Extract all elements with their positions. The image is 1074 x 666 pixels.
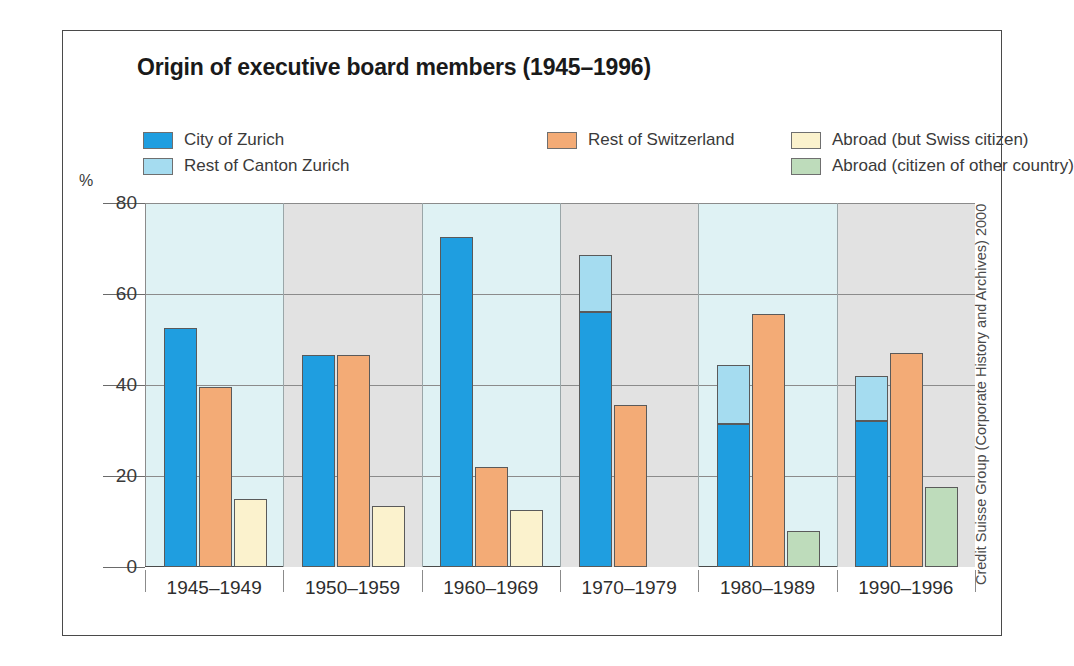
- y-axis-unit-label: %: [79, 172, 93, 190]
- legend-column-2: Rest of Switzerland: [547, 127, 734, 153]
- legend-item-city-of-zurich: City of Zurich: [143, 127, 349, 153]
- bar-group: [422, 203, 560, 567]
- x-axis-tick-mark: [698, 570, 699, 592]
- x-axis-tick-label: 1945–1949: [145, 577, 283, 599]
- legend-swatch-abroad-other-country: [791, 158, 821, 175]
- y-axis-tick-label: 20: [93, 465, 137, 487]
- legend-label-abroad-other-country: Abroad (citizen of other country): [832, 156, 1074, 176]
- x-axis-tick-label: 1970–1979: [560, 577, 698, 599]
- legend-swatch-abroad-swiss-citizen: [791, 132, 821, 149]
- bar-abroad-swiss-citizen: [234, 499, 267, 567]
- legend-label-city-of-zurich: City of Zurich: [184, 130, 284, 150]
- legend-label-abroad-swiss-citizen: Abroad (but Swiss citizen): [832, 130, 1029, 150]
- bar-rest-of-switzerland: [199, 387, 232, 567]
- x-axis-tick-mark: [837, 570, 838, 592]
- bar-rest-of-canton-zurich: [579, 255, 612, 312]
- credit-text: Credit Suisse Group (Corporate History a…: [973, 204, 989, 585]
- bar-abroad-swiss-citizen: [372, 506, 405, 567]
- legend-column-3: Abroad (but Swiss citizen) Abroad (citiz…: [791, 127, 1074, 179]
- y-axis-tick-label: 40: [93, 374, 137, 396]
- chart-legend: City of Zurich Rest of Canton Zurich Res…: [143, 127, 973, 179]
- x-axis-tick-label: 1960–1969: [422, 577, 560, 599]
- legend-column-1: City of Zurich Rest of Canton Zurich: [143, 127, 349, 179]
- bar-rest-of-canton-zurich: [855, 376, 888, 422]
- bar-city-of-zurich: [302, 355, 335, 567]
- y-axis-tick-label: 60: [93, 283, 137, 305]
- bar-group: [560, 203, 698, 567]
- bar-abroad-other-country: [925, 487, 958, 567]
- bar-rest-of-switzerland: [475, 467, 508, 567]
- bar-rest-of-switzerland: [614, 405, 647, 567]
- bar-city-of-zurich: [579, 312, 612, 567]
- legend-label-rest-of-canton-zurich: Rest of Canton Zurich: [184, 156, 349, 176]
- bar-city-of-zurich: [855, 421, 888, 567]
- x-axis-tick-label: 1950–1959: [283, 577, 421, 599]
- bar-abroad-swiss-citizen: [510, 510, 543, 567]
- bar-abroad-other-country: [787, 531, 820, 567]
- bar-rest-of-switzerland: [752, 314, 785, 567]
- chart-title: Origin of executive board members (1945–…: [137, 54, 651, 81]
- bar-city-of-zurich: [717, 424, 750, 567]
- bar-rest-of-canton-zurich: [717, 365, 750, 424]
- bar-group: [283, 203, 421, 567]
- bar-group: [698, 203, 836, 567]
- x-axis-labels: 1945–19491950–19591960–19691970–19791980…: [145, 568, 975, 608]
- y-axis-tick-label: 0: [93, 556, 137, 578]
- x-axis-tick-mark: [560, 570, 561, 592]
- legend-item-rest-of-switzerland: Rest of Switzerland: [547, 127, 734, 153]
- bar-group: [837, 203, 975, 567]
- legend-item-rest-of-canton-zurich: Rest of Canton Zurich: [143, 153, 349, 179]
- legend-swatch-city-of-zurich: [143, 132, 173, 149]
- bar-city-of-zurich: [164, 328, 197, 567]
- x-axis-tick-mark: [422, 570, 423, 592]
- x-axis-tick-mark: [145, 570, 146, 592]
- y-axis-tick-label: 80: [93, 192, 137, 214]
- legend-item-abroad-other-country: Abroad (citizen of other country): [791, 153, 1074, 179]
- legend-swatch-rest-of-canton-zurich: [143, 158, 173, 175]
- bar-rest-of-switzerland: [337, 355, 370, 567]
- legend-swatch-rest-of-switzerland: [547, 132, 577, 149]
- legend-label-rest-of-switzerland: Rest of Switzerland: [588, 130, 734, 150]
- bar-group: [145, 203, 283, 567]
- legend-item-abroad-swiss-citizen: Abroad (but Swiss citizen): [791, 127, 1074, 153]
- bar-city-of-zurich: [440, 237, 473, 567]
- x-axis-tick-label: 1980–1989: [698, 577, 836, 599]
- x-axis-tick-mark: [283, 570, 284, 592]
- plot-area: 020406080: [145, 203, 975, 567]
- bar-rest-of-switzerland: [890, 353, 923, 567]
- x-axis-tick-label: 1990–1996: [837, 577, 975, 599]
